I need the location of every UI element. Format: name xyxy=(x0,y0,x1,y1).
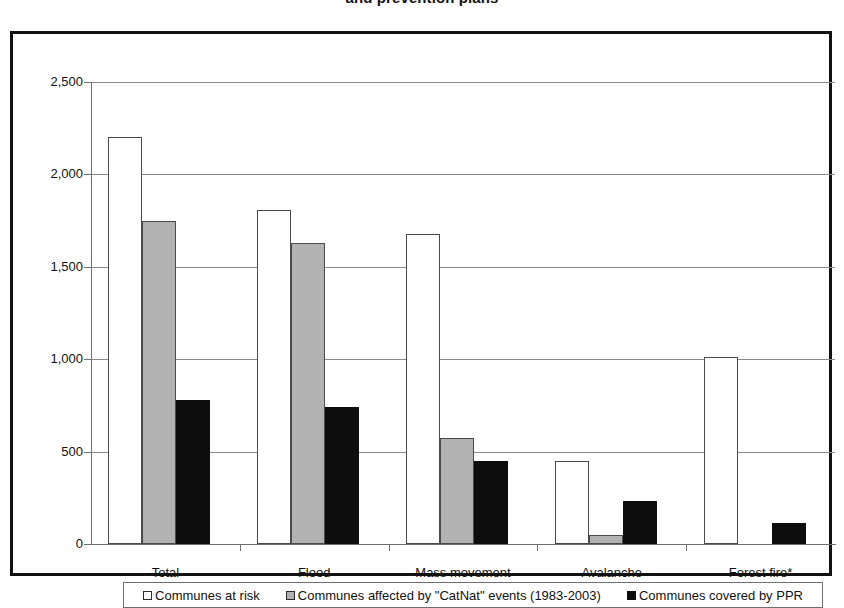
y-axis-tick-label: 2,000 xyxy=(21,167,83,180)
plot-inner: 05001,0001,5002,0002,500 TotalFloodMass … xyxy=(91,82,835,544)
legend-swatch-icon xyxy=(143,591,152,600)
x-axis-category-label: Flood xyxy=(240,566,389,580)
chart-title: and prevention plans xyxy=(0,0,844,6)
y-axis-tick-label: 1,000 xyxy=(21,352,83,365)
bar xyxy=(623,501,657,544)
legend-item[interactable]: Communes covered by PPR xyxy=(627,589,803,602)
bar xyxy=(589,535,623,544)
legend-item[interactable]: Communes at risk xyxy=(143,589,260,602)
y-axis-tick xyxy=(84,359,91,360)
chart-frame: 05001,0001,5002,0002,500 TotalFloodMass … xyxy=(10,31,832,576)
y-axis-tick-label: 1,500 xyxy=(21,260,83,273)
x-axis-separator xyxy=(537,544,538,551)
y-axis-tick-label: 0 xyxy=(21,537,83,550)
y-axis-tick-label: 500 xyxy=(21,445,83,458)
bar xyxy=(704,357,738,544)
legend-label: Communes affected by "CatNat" events (19… xyxy=(298,589,601,602)
x-axis-category-label: Avalanche xyxy=(537,566,686,580)
x-axis-separator xyxy=(389,544,390,551)
bar xyxy=(108,137,142,544)
bar xyxy=(474,461,508,544)
y-axis-tick xyxy=(84,174,91,175)
y-axis-tick xyxy=(84,82,91,83)
x-axis-line xyxy=(91,544,836,545)
chart-legend: Communes at riskCommunes affected by "Ca… xyxy=(123,582,823,608)
y-axis-tick xyxy=(84,452,91,453)
legend-item[interactable]: Communes affected by "CatNat" events (19… xyxy=(286,589,601,602)
bar xyxy=(406,234,440,544)
y-axis-labels: 05001,0001,5002,0002,500 xyxy=(19,82,83,545)
x-axis-separator xyxy=(240,544,241,551)
bar-group xyxy=(257,82,359,544)
legend-swatch-icon xyxy=(286,591,295,600)
bar xyxy=(257,210,291,544)
plot-area: 05001,0001,5002,0002,500 TotalFloodMass … xyxy=(91,82,835,544)
x-axis-category-label: Forest fire* xyxy=(686,566,835,580)
legend-swatch-icon xyxy=(627,591,636,600)
bar xyxy=(555,461,589,544)
bar-group xyxy=(704,82,806,544)
x-axis-category-label: Mass movement xyxy=(389,566,538,580)
x-axis-separator xyxy=(686,544,687,551)
bar xyxy=(440,438,474,544)
y-axis-tick xyxy=(84,544,91,545)
bar xyxy=(291,243,325,544)
bar xyxy=(772,523,806,544)
legend-label: Communes covered by PPR xyxy=(639,589,803,602)
y-axis-tick-label: 2,500 xyxy=(21,75,83,88)
y-axis-tick xyxy=(84,267,91,268)
bar-group xyxy=(406,82,508,544)
bar xyxy=(142,221,176,544)
bar xyxy=(176,400,210,544)
bar-group xyxy=(555,82,657,544)
bar xyxy=(325,407,359,544)
legend-label: Communes at risk xyxy=(155,589,260,602)
bar-group xyxy=(108,82,210,544)
y-axis-line xyxy=(91,82,92,545)
x-axis-category-label: Total xyxy=(91,566,240,580)
